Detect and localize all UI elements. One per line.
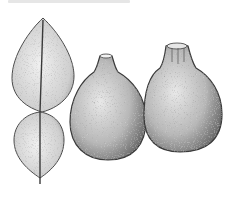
fruit-left — [70, 54, 146, 160]
fruit-left-stem-end — [100, 54, 112, 58]
botanical-illustration — [0, 0, 238, 202]
leaf — [12, 18, 74, 184]
fruit-right — [144, 43, 222, 152]
